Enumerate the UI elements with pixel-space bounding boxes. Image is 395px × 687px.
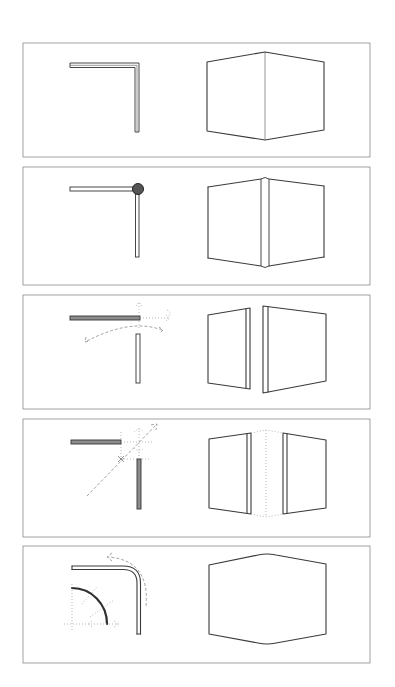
diagram-canvas — [0, 0, 395, 687]
box-top-right — [269, 179, 324, 186]
corner-post-node — [133, 184, 144, 195]
elevation-simple-corner — [207, 52, 324, 140]
plan-view-separated-corner — [70, 302, 170, 383]
elevation-diagonal-corner — [209, 430, 326, 517]
elevation-rounded-corner — [209, 554, 326, 644]
l-wall-plan — [70, 63, 139, 132]
rounded-wall-inner — [72, 570, 137, 635]
panel-5 — [23, 546, 370, 663]
horizontal-wall-plan — [71, 440, 121, 444]
arrowhead-icon — [107, 553, 112, 561]
radius-tick — [90, 600, 114, 617]
panel-3 — [23, 295, 370, 409]
right-panel — [283, 433, 326, 514]
horizontal-wall-plan — [70, 316, 140, 320]
left-panel — [209, 433, 251, 514]
horizontal-wall-plan — [70, 187, 134, 191]
virtual-corner-edges — [251, 430, 283, 517]
vertical-wall-plan — [137, 459, 141, 509]
curved-surface-outline — [209, 554, 326, 644]
elevation-post-corner — [208, 178, 324, 268]
panel-frame — [23, 43, 370, 157]
elevation-separated-corner — [208, 306, 326, 393]
vertical-wall-plan — [136, 334, 140, 383]
panel-frame — [23, 546, 370, 663]
left-panel — [208, 308, 250, 389]
box-outline — [207, 52, 324, 140]
radius-arc — [72, 588, 107, 624]
panel-frame — [23, 419, 370, 537]
box-bottom-right — [269, 257, 324, 266]
panel-1 — [23, 43, 370, 157]
swing-arc-arrow — [85, 326, 162, 342]
box-bottom-left — [208, 258, 261, 266]
panel-4 — [23, 419, 370, 537]
panel-2 — [23, 167, 370, 285]
plan-view-diagonal-corner — [71, 424, 157, 509]
box-top-left — [208, 179, 261, 187]
right-panel — [263, 306, 326, 393]
corner-post — [261, 178, 269, 268]
plan-view-simple-corner — [70, 63, 139, 132]
vertical-wall-plan — [136, 190, 140, 257]
plan-view-post-corner — [70, 184, 144, 258]
plan-view-rounded-corner — [64, 553, 146, 634]
panel-frame — [23, 295, 370, 409]
rotation-mark — [167, 310, 170, 316]
